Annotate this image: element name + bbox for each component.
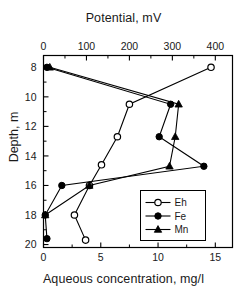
data-point-eh xyxy=(208,64,214,70)
depth-axis-tick-label: 18 xyxy=(25,209,37,221)
data-point-fe xyxy=(44,235,50,241)
bottom-axis-tick-label: 0 xyxy=(41,251,47,263)
depth-axis-tick-label: 10 xyxy=(25,91,37,103)
top-axis-tick-label: 100 xyxy=(78,40,96,52)
legend-label-eh: Eh xyxy=(175,197,187,208)
chart-figure: Potential, mV Aqueous concentration, mg/… xyxy=(0,0,247,298)
top-axis-tick-label: 300 xyxy=(164,40,182,52)
bottom-axis-tick-label: 5 xyxy=(98,251,104,263)
data-point-eh xyxy=(82,237,88,243)
legend-label-fe: Fe xyxy=(175,211,187,222)
top-axis-tick-label: 200 xyxy=(121,40,139,52)
legend-marker-fe xyxy=(155,213,161,219)
bottom-axis-tick-label: 15 xyxy=(209,251,221,263)
data-point-eh xyxy=(71,212,77,218)
data-point-fe xyxy=(201,163,207,169)
data-point-eh xyxy=(114,134,120,140)
bottom-axis-tick-label: 10 xyxy=(152,251,164,263)
legend-marker-eh xyxy=(155,199,161,205)
data-point-mn xyxy=(172,133,179,140)
top-axis-tick-label: 0 xyxy=(41,40,47,52)
data-point-eh xyxy=(126,101,132,107)
depth-axis-tick-label: 12 xyxy=(25,120,37,132)
depth-axis-tick-label: 20 xyxy=(25,238,37,250)
data-point-fe xyxy=(156,134,162,140)
data-point-eh xyxy=(98,162,104,168)
legend-label-mn: Mn xyxy=(175,224,189,235)
plot-canvas: 01002003004000510158101214161820EhFeMn xyxy=(0,0,247,298)
depth-axis-tick-label: 8 xyxy=(31,61,37,73)
top-axis-tick-label: 400 xyxy=(207,40,225,52)
depth-axis-tick-label: 16 xyxy=(25,179,37,191)
data-point-fe xyxy=(59,182,65,188)
depth-axis-tick-label: 14 xyxy=(25,150,37,162)
data-point-mn xyxy=(166,162,173,169)
